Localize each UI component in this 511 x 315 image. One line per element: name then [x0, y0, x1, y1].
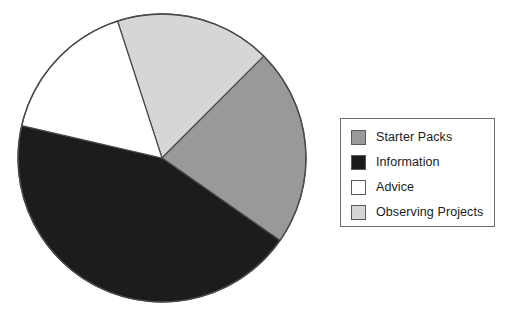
pie-slice-group: [18, 14, 306, 302]
legend-swatch-information: [351, 155, 366, 170]
pie-svg: [0, 0, 330, 315]
legend-item-advice[interactable]: Advice: [351, 175, 494, 199]
legend-swatch-starter-packs: [351, 130, 366, 145]
legend-swatch-observing-projects: [351, 205, 366, 220]
legend-swatch-advice: [351, 180, 366, 195]
chart-legend: Starter Packs Information Advice Observi…: [340, 118, 495, 227]
legend-item-starter-packs[interactable]: Starter Packs: [351, 125, 494, 149]
legend-item-observing-projects[interactable]: Observing Projects: [351, 200, 494, 224]
legend-label-observing-projects: Observing Projects: [376, 205, 483, 220]
legend-item-information[interactable]: Information: [351, 150, 494, 174]
pie-chart-area: [0, 0, 330, 315]
legend-label-starter-packs: Starter Packs: [376, 130, 452, 145]
legend-label-information: Information: [376, 155, 440, 170]
legend-label-advice: Advice: [376, 180, 414, 195]
pie-chart-figure: Starter Packs Information Advice Observi…: [0, 0, 511, 315]
